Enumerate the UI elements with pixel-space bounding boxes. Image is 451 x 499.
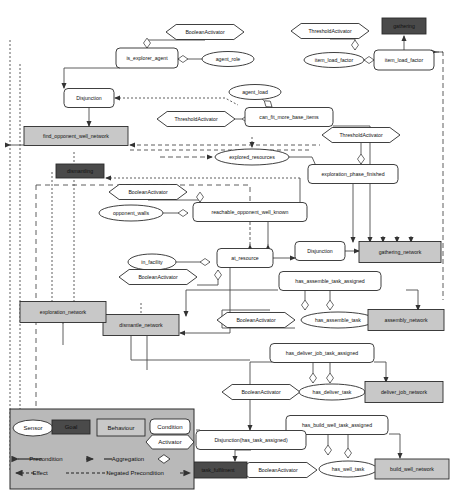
node-in_facility[interactable]: in_facility — [128, 254, 176, 270]
legend-shape-activator: Activator — [146, 435, 194, 449]
booleanactivator_3-label: BooleanActivator — [138, 274, 177, 280]
node-build_well_network[interactable]: build_well_network — [375, 459, 449, 479]
node-reachable_opponent_well_known[interactable]: reachable_opponent_well_known — [193, 203, 307, 222]
exploration_network-label: exploration_network — [40, 309, 87, 315]
booleanactivator_4-label: BooleanActivator — [236, 317, 275, 323]
node-exploration_phase_finished[interactable]: exploration_phase_finished — [308, 165, 398, 184]
can_fit_more_base_items-label: can_fit_more_base_items — [259, 114, 319, 120]
node-opponent_walls[interactable]: opponent_walls — [99, 205, 163, 221]
opponent_walls-label: opponent_walls — [113, 210, 149, 216]
has_assemble_task-label: has_assemble_task — [315, 317, 361, 323]
node-is_explorer_agent[interactable]: is_explorer_agent — [116, 48, 178, 68]
thresholdactivator_2-label: ThresholdActivator — [174, 116, 218, 122]
node-disjunction_1[interactable]: Disjunction — [64, 89, 114, 108]
legend-behaviour-label: Behaviour — [107, 425, 134, 431]
reachable_opponent_well_known-label: reachable_opponent_well_known — [211, 209, 288, 215]
behaviour-network-diagram: BooleanActivatoris_explorer_agentagent_r… — [0, 0, 451, 499]
deliver_job_network-label: deliver_job_network — [381, 389, 428, 395]
dismantle_network-label: dismantle_network — [119, 322, 163, 328]
has_well_task-label: has_well_task — [332, 466, 365, 472]
node-disjunction_has_task[interactable]: Disjunction(has_task_assigned) — [196, 431, 306, 450]
legend-shape-sensor: Sensor — [13, 420, 53, 436]
node-task_fulfilment[interactable]: task_fulfilment — [189, 462, 247, 478]
has_assemble_task_assigned-label: has_assemble_task_assigned — [295, 278, 365, 284]
has_deliver_task-label: has_deliver_task — [313, 389, 352, 395]
has_deliver_job_task_assigned-label: has_deliver_job_task_assigned — [286, 350, 359, 356]
node-has_well_task[interactable]: has_well_task — [319, 461, 377, 477]
in_facility-label: in_facility — [141, 259, 163, 265]
node-exploration_network[interactable]: exploration_network — [20, 302, 106, 323]
disjunction_2-label: Disjunction — [307, 248, 332, 254]
at_resource-label: at_resource — [231, 255, 259, 261]
node-item_load_factor_cond[interactable]: item_load_factor — [374, 50, 434, 70]
node-thresholdactivator_1[interactable]: ThresholdActivator — [291, 24, 369, 39]
gathering_network-label: gathering_network — [379, 249, 422, 255]
node-booleanactivator_5[interactable]: BooleanActivator — [222, 385, 300, 400]
node-has_assemble_task[interactable]: has_assemble_task — [301, 312, 375, 328]
node-has_assemble_task_assigned[interactable]: has_assemble_task_assigned — [279, 272, 381, 291]
agent_load-label: agent_load — [242, 89, 268, 95]
item_load_factor_cond-label: item_load_factor — [385, 57, 424, 63]
node-agent_load[interactable]: agent_load — [229, 85, 281, 100]
node-can_fit_more_base_items[interactable]: can_fit_more_base_items — [245, 108, 333, 127]
node-booleanactivator_3[interactable]: BooleanActivator — [119, 270, 197, 285]
node-has_deliver_job_task_assigned[interactable]: has_deliver_job_task_assigned — [270, 344, 374, 363]
item_load_factor_sensor-label: item_load_factor — [315, 57, 354, 63]
node-deliver_job_network[interactable]: deliver_job_network — [365, 382, 443, 403]
task_fulfilment-label: task_fulfilment — [201, 467, 235, 473]
legend-shape-behaviour: Behaviour — [97, 419, 145, 436]
legend-activator-label: Activator — [158, 439, 181, 445]
build_well_network-label: build_well_network — [390, 466, 434, 472]
node-assembly_network[interactable]: assembly_network — [368, 310, 444, 331]
booleanactivator_2-label: BooleanActivator — [128, 189, 167, 195]
legend-condition-label: Condition — [157, 424, 182, 430]
node-at_resource[interactable]: at_resource — [217, 249, 273, 268]
legend-sensor-label: Sensor — [23, 425, 42, 431]
node-booleanactivator_6[interactable]: BooleanActivator — [239, 463, 317, 478]
legend-shape-goal: Goal — [52, 420, 90, 434]
node-thresholdactivator_2[interactable]: ThresholdActivator — [157, 112, 235, 127]
booleanactivator_1-label: BooleanActivator — [185, 29, 224, 35]
node-thresholdactivator_3[interactable]: ThresholdActivator — [322, 128, 400, 143]
node-booleanactivator_1[interactable]: BooleanActivator — [166, 25, 244, 40]
legend-effect-label: Effect — [32, 470, 48, 476]
node-gathering_network[interactable]: gathering_network — [359, 242, 441, 263]
node-booleanactivator_2[interactable]: BooleanActivator — [109, 185, 187, 200]
node-item_load_factor_sensor[interactable]: item_load_factor — [304, 53, 364, 68]
booleanactivator_5-label: BooleanActivator — [241, 389, 280, 395]
explored_resources-label: explored_resources — [229, 154, 275, 160]
node-dismantling[interactable]: dismantling — [56, 164, 104, 178]
disjunction_has_task-label: Disjunction(has_task_assigned) — [214, 437, 288, 443]
disjunction_1-label: Disjunction — [76, 95, 101, 101]
exploration_phase_finished-label: exploration_phase_finished — [321, 171, 384, 177]
booleanactivator_6-label: BooleanActivator — [258, 467, 297, 473]
node-dismantle_network[interactable]: dismantle_network — [103, 315, 179, 336]
legend-precondition-label: Precondition — [29, 456, 62, 462]
legend-goal-label: Goal — [65, 424, 78, 430]
node-has_deliver_task[interactable]: has_deliver_task — [299, 384, 365, 400]
node-explored_resources[interactable]: explored_resources — [215, 149, 289, 165]
has_build_well_task_assigned-label: has_build_well_task_assigned — [302, 422, 372, 428]
node-agent_role[interactable]: agent_role — [202, 52, 254, 67]
node-booleanactivator_4[interactable]: BooleanActivator — [217, 313, 295, 328]
legend-aggregation-label: Aggregation — [112, 456, 144, 462]
dismantling-label: dismantling — [67, 168, 93, 174]
legend-negated_precondition-label: Negated Precondition — [106, 470, 164, 476]
legend: SensorGoalBehaviourConditionActivatorPre… — [10, 409, 194, 489]
diagram-canvas: BooleanActivatoris_explorer_agentagent_r… — [0, 0, 451, 499]
thresholdactivator_1-label: ThresholdActivator — [308, 28, 352, 34]
thresholdactivator_3-label: ThresholdActivator — [339, 132, 383, 138]
node-gathering[interactable]: gathering — [382, 18, 426, 34]
node-disjunction_2[interactable]: Disjunction — [295, 242, 345, 261]
assembly_network-label: assembly_network — [385, 317, 428, 323]
find_opponent_well_network-label: find_opponent_well_network — [43, 133, 109, 139]
agent_role-label: agent_role — [216, 56, 241, 62]
legend-shape-condition: Condition — [150, 419, 190, 434]
gathering-label: gathering — [393, 23, 415, 29]
is_explorer_agent-label: is_explorer_agent — [126, 55, 168, 61]
node-find_opponent_well_network[interactable]: find_opponent_well_network — [24, 127, 128, 146]
